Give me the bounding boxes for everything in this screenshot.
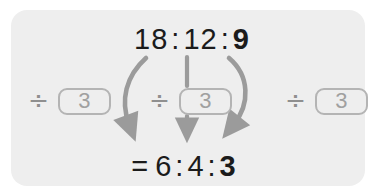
bottom-ratio-row: =6:4:3 [0, 150, 374, 182]
bottom-value-1: 6 [155, 150, 172, 182]
operation-left: ÷ 3 [28, 86, 111, 116]
operation-middle: ÷ 3 [149, 86, 232, 116]
top-value-1: 18 [134, 23, 168, 55]
bottom-value-3: 3 [220, 150, 237, 182]
top-separator-2: : [218, 23, 233, 55]
bottom-separator-1: : [172, 150, 187, 182]
top-value-3: 9 [233, 23, 250, 55]
bottom-separator-2: : [205, 150, 220, 182]
operation-right: ÷ 3 [285, 86, 368, 116]
top-ratio-row: 18:12:9 [2, 23, 380, 55]
divisor-box-middle[interactable]: 3 [179, 88, 232, 115]
divide-icon: ÷ [285, 87, 306, 115]
divisor-box-right[interactable]: 3 [315, 88, 368, 115]
equals-sign: = [131, 150, 155, 182]
divide-icon: ÷ [28, 87, 49, 115]
top-value-2: 12 [183, 23, 217, 55]
bottom-value-2: 4 [187, 150, 204, 182]
top-separator-1: : [168, 23, 183, 55]
divisor-box-left[interactable]: 3 [58, 88, 111, 115]
divide-icon: ÷ [149, 87, 170, 115]
diagram-canvas: 18:12:9 ÷ 3 ÷ 3 ÷ 3 =6:4:3 [0, 0, 380, 191]
